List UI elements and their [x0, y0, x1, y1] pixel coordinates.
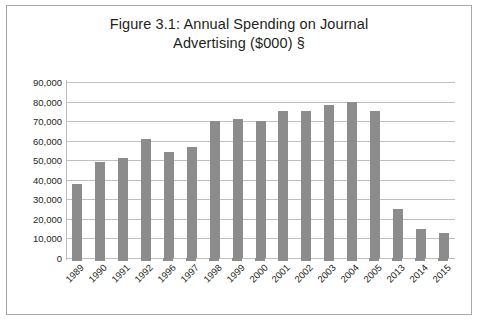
x-axis-tick-label: 1996 — [155, 262, 178, 285]
x-axis-tick-label: 2000 — [247, 262, 270, 285]
bar — [347, 102, 357, 258]
x-axis-tick-label: 1998 — [201, 262, 224, 285]
x-axis-tick-label: 2003 — [315, 262, 338, 285]
bar — [393, 209, 403, 258]
y-axis-tick-label: 70,000 — [33, 116, 62, 127]
bar — [118, 158, 128, 258]
y-axis-tick-label: 0 — [57, 253, 62, 264]
x-axis-tick — [347, 258, 357, 261]
y-axis-tick-label: 90,000 — [33, 77, 62, 88]
bar — [233, 119, 243, 258]
x-axis-tick-label: 2013 — [384, 262, 407, 285]
x-axis-tick — [369, 258, 379, 261]
x-axis-tick — [72, 258, 82, 261]
y-axis-tick-label: 40,000 — [33, 174, 62, 185]
x-axis-tick — [163, 258, 173, 261]
y-axis-tick-label: 50,000 — [33, 155, 62, 166]
x-axis-tick — [438, 258, 448, 261]
x-axis-tick-label: 1989 — [64, 262, 87, 285]
x-axis-tick — [186, 258, 196, 261]
x-axis-tick-label: 1992 — [132, 262, 155, 285]
gridline — [66, 82, 455, 83]
x-axis-tick — [278, 258, 288, 261]
x-axis-tick-labels: 1989199019911992199619971998199920002001… — [66, 262, 455, 312]
chart-plot-wrapper: 010,00020,00030,00040,00050,00060,00070,… — [7, 6, 471, 314]
x-axis-tick-label: 2004 — [338, 262, 361, 285]
x-axis-tick-label: 1997 — [178, 262, 201, 285]
x-axis-tick — [392, 258, 402, 261]
gridline — [66, 102, 455, 103]
x-axis-tick-label: 1991 — [109, 262, 132, 285]
bar — [187, 147, 197, 258]
bar — [141, 139, 151, 258]
x-axis-tick-label: 2014 — [407, 262, 430, 285]
x-axis-tick — [324, 258, 334, 261]
x-axis-tick — [301, 258, 311, 261]
bar — [95, 162, 105, 258]
y-axis-tick-label: 80,000 — [33, 96, 62, 107]
x-axis-tick — [95, 258, 105, 261]
bar — [72, 184, 82, 258]
x-axis-tick-label: 2001 — [270, 262, 293, 285]
x-axis-tick-label: 2015 — [430, 262, 453, 285]
x-axis-tick — [141, 258, 151, 261]
x-axis-tick — [232, 258, 242, 261]
bar — [256, 121, 266, 258]
bar — [416, 229, 426, 258]
x-axis-tick — [255, 258, 265, 261]
y-axis-tick-label: 30,000 — [33, 194, 62, 205]
bar — [370, 111, 380, 258]
chart-plot-area — [66, 82, 455, 258]
bar — [278, 111, 288, 258]
y-axis-tick-labels: 010,00020,00030,00040,00050,00060,00070,… — [11, 82, 62, 258]
bar — [439, 233, 449, 258]
y-axis-tick-label: 60,000 — [33, 135, 62, 146]
bar — [164, 152, 174, 258]
bar — [301, 111, 311, 258]
figure-frame: Figure 3.1: Annual Spending on Journal A… — [6, 5, 472, 315]
x-axis-tick — [209, 258, 219, 261]
y-axis-tick-label: 10,000 — [33, 233, 62, 244]
x-axis-tick-label: 2005 — [361, 262, 384, 285]
bar — [324, 105, 334, 258]
x-axis-tick-label: 1990 — [87, 262, 110, 285]
x-axis-tick — [415, 258, 425, 261]
x-axis-tick-label: 2002 — [292, 262, 315, 285]
x-axis-tick — [118, 258, 128, 261]
x-axis-tick-label: 1999 — [224, 262, 247, 285]
y-axis-tick-label: 20,000 — [33, 213, 62, 224]
bar — [210, 121, 220, 258]
